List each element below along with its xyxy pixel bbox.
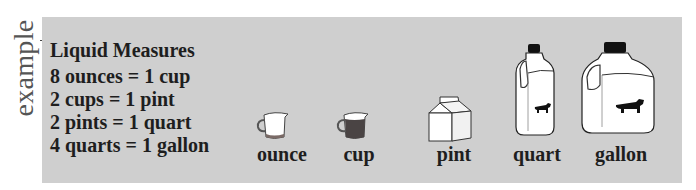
side-label-text: example (8, 20, 40, 117)
item-cup: cup (324, 17, 394, 183)
side-label: example (4, 18, 44, 118)
item-quart: quart (502, 17, 572, 183)
fact-line: 4 quarts = 1 gallon (50, 134, 209, 157)
facts-list: Liquid Measures 8 ounces = 1 cup 2 cups … (50, 37, 209, 157)
milk-jug-large-icon (578, 41, 658, 135)
item-label: gallon (568, 143, 674, 166)
item-label: ounce (242, 143, 322, 166)
fact-line: 8 ounces = 1 cup (50, 65, 209, 88)
item-label: quart (502, 143, 572, 166)
measuring-cup-low-icon (254, 109, 294, 143)
item-gallon: gallon (574, 17, 674, 183)
item-label: cup (324, 143, 394, 166)
item-label: pint (414, 143, 494, 166)
item-pint: pint (414, 17, 494, 183)
milk-jug-small-icon (512, 43, 558, 137)
milk-carton-icon (426, 95, 476, 145)
fact-line: 2 cups = 1 pint (50, 88, 209, 111)
panel-title: Liquid Measures (50, 37, 209, 63)
fact-line: 2 pints = 1 quart (50, 111, 209, 134)
item-ounce: ounce (242, 17, 322, 183)
liquid-measures-panel: Liquid Measures 8 ounces = 1 cup 2 cups … (42, 17, 682, 183)
measuring-cup-full-icon (334, 109, 374, 143)
